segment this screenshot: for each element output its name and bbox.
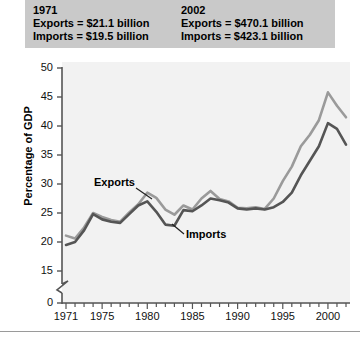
bottom-divider [0, 331, 360, 332]
exports-imports-gdp-figure: 1971 Exports = $21.1 billion Imports = $… [0, 0, 360, 342]
series-line-exports [66, 92, 346, 238]
series-label-imports: Imports [186, 228, 226, 240]
leader-line-imports [172, 224, 184, 234]
chart-canvas [0, 0, 360, 342]
series-label-exports: Exports [94, 176, 135, 188]
